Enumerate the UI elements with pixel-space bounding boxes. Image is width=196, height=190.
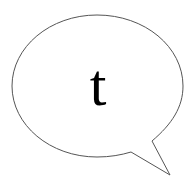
bubble-letter: t [0, 55, 196, 115]
